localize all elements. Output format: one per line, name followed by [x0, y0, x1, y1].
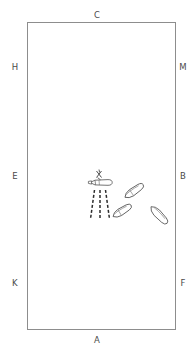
edge-label-left-e: E: [8, 172, 22, 181]
edge-label-bottom-a: A: [0, 336, 194, 345]
edge-label-right-m: M: [175, 63, 191, 72]
edge-label-right-b: B: [175, 172, 191, 181]
edge-label-right-f: F: [175, 279, 191, 288]
edge-label-left-h: H: [8, 63, 22, 72]
diagram-canvas: C A H E K M B F: [0, 0, 194, 356]
edge-label-left-k: K: [8, 279, 22, 288]
field-boundary-rectangle: [27, 22, 176, 330]
edge-label-top-c: C: [0, 11, 194, 20]
